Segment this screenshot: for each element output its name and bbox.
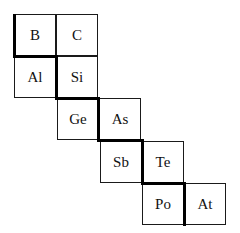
staircase-line-segment: [97, 139, 143, 142]
staircase-line-segment: [97, 97, 100, 141]
staircase-line-segment: [13, 14, 16, 57]
element-cell-as: As: [99, 98, 141, 140]
element-cell-si: Si: [56, 56, 98, 98]
staircase-line-segment: [55, 55, 58, 99]
element-cell-al: Al: [14, 56, 56, 98]
element-cell-sb: Sb: [100, 141, 142, 183]
element-cell-po: Po: [142, 183, 184, 225]
metalloid-staircase-diagram: B C Al Si Ge As Sb Te Po At: [0, 0, 240, 233]
element-cell-b: B: [14, 14, 56, 56]
element-cell-te: Te: [142, 141, 184, 183]
staircase-line-segment: [141, 182, 186, 185]
element-cell-at: At: [184, 183, 226, 225]
staircase-line-segment: [183, 182, 186, 226]
staircase-line-segment: [13, 55, 58, 58]
element-cell-c: C: [56, 14, 98, 56]
element-cell-ge: Ge: [57, 98, 99, 140]
staircase-line-segment: [141, 139, 144, 184]
staircase-line-segment: [55, 97, 100, 100]
